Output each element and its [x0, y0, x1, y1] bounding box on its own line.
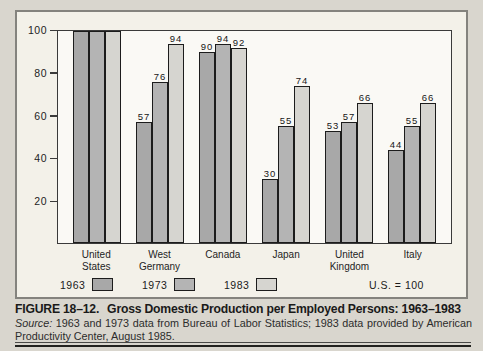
index-note: U.S. = 100	[369, 279, 424, 291]
value-label-1983-italy: 66	[422, 92, 435, 103]
figure-number: FIGURE 18–12.	[15, 302, 99, 316]
plot-area: 577694909492305574535766445566	[57, 30, 452, 244]
bar-group-united-states	[73, 31, 121, 243]
bar-1983-canada: 92	[231, 48, 247, 243]
bottom-rule-thin	[15, 342, 471, 343]
bar-1963-united-kingdom: 53	[325, 131, 341, 243]
y-tick-mark-20	[50, 201, 57, 203]
y-tick-label-40: 40	[19, 152, 47, 164]
caption-title-line: FIGURE 18–12.Gross Domestic Production p…	[15, 302, 472, 316]
x-label-cell-united-states: United States	[72, 249, 120, 277]
value-label-1973-united-kingdom: 57	[343, 111, 356, 122]
y-tick-mark-40	[50, 158, 57, 160]
legend-item-1973: 1973	[142, 278, 195, 291]
legend-item-1963: 1963	[60, 278, 113, 291]
legend-label-1963: 1963	[60, 279, 85, 291]
y-tick-label-20: 20	[19, 195, 47, 207]
value-label-1973-italy: 55	[406, 115, 419, 126]
source-prefix: Source:	[15, 317, 52, 329]
bar-1983-japan: 74	[294, 86, 310, 243]
value-label-1983-canada: 92	[233, 37, 246, 48]
x-label-italy: Italy	[404, 249, 422, 277]
value-label-1973-canada: 94	[217, 33, 230, 44]
bar-1973-west-germany: 76	[152, 82, 168, 243]
legend-swatch-1973	[174, 278, 195, 291]
bar-1983-united-kingdom: 66	[357, 103, 373, 243]
legend-label-1973: 1973	[142, 279, 167, 291]
bar-1963-united-states	[73, 31, 89, 243]
bar-1973-japan: 55	[278, 126, 294, 243]
legend-swatch-1983	[256, 278, 277, 291]
bar-1963-canada: 90	[199, 52, 215, 243]
value-label-1963-italy: 44	[390, 139, 403, 150]
bar-group-west-germany: 577694	[136, 31, 184, 243]
x-label-cell-italy: Italy	[389, 249, 437, 277]
x-axis-labels: United StatesWest GermanyCanadaJapanUnit…	[57, 249, 452, 277]
bar-group-united-kingdom: 535766	[325, 31, 373, 243]
bar-1973-united-kingdom: 57	[341, 122, 357, 243]
bar-group-canada: 909492	[199, 31, 247, 243]
x-label-united-states: United States	[82, 249, 111, 277]
bar-1973-canada: 94	[215, 44, 231, 243]
bar-1973-italy: 55	[404, 126, 420, 243]
bar-group-japan: 305574	[262, 31, 310, 243]
x-label-japan: Japan	[273, 249, 300, 277]
source-text: 1963 and 1973 data from Bureau of Labor …	[15, 317, 472, 342]
value-label-1983-united-kingdom: 66	[359, 92, 372, 103]
figure-caption: FIGURE 18–12.Gross Domestic Production p…	[15, 302, 472, 343]
bar-1983-italy: 66	[420, 103, 436, 243]
bar-1983-west-germany: 94	[168, 44, 184, 243]
bar-1963-japan: 30	[262, 179, 278, 243]
x-label-cell-united-kingdom: United Kingdom	[325, 249, 373, 277]
bar-1983-united-states	[105, 31, 121, 243]
y-tick-mark-80	[50, 72, 57, 74]
x-label-west-germany: West Germany	[139, 249, 180, 277]
figure-title: Gross Domestic Production per Employed P…	[107, 302, 461, 316]
bottom-rule-thick	[15, 345, 471, 348]
value-label-1963-united-kingdom: 53	[327, 120, 340, 131]
legend: 1963 1973 1983 U.S. = 100	[17, 278, 466, 296]
value-label-1963-japan: 30	[264, 168, 277, 179]
legend-item-1983: 1983	[224, 278, 277, 291]
value-label-1963-canada: 90	[201, 41, 214, 52]
value-label-1983-west-germany: 94	[170, 33, 183, 44]
figure-box: 577694909492305574535766445566 204060801…	[15, 10, 468, 299]
x-label-cell-japan: Japan	[262, 249, 310, 277]
value-label-1983-japan: 74	[296, 75, 309, 86]
bar-1963-west-germany: 57	[136, 122, 152, 243]
value-label-1973-west-germany: 76	[154, 71, 167, 82]
value-label-1973-japan: 55	[280, 115, 293, 126]
value-label-1963-west-germany: 57	[138, 111, 151, 122]
x-label-canada: Canada	[205, 249, 240, 277]
y-tick-mark-100	[50, 30, 57, 32]
y-tick-label-100: 100	[19, 24, 47, 36]
x-label-cell-canada: Canada	[199, 249, 247, 277]
x-label-cell-west-germany: West Germany	[136, 249, 184, 277]
figure-source: Source: 1963 and 1973 data from Bureau o…	[15, 317, 472, 343]
legend-swatch-1963	[92, 278, 113, 291]
legend-label-1983: 1983	[224, 279, 249, 291]
y-tick-mark-60	[50, 115, 57, 117]
bar-group-italy: 445566	[388, 31, 436, 243]
y-tick-label-60: 60	[19, 110, 47, 122]
y-tick-label-80: 80	[19, 67, 47, 79]
bar-1973-united-states	[89, 31, 105, 243]
x-label-united-kingdom: United Kingdom	[330, 249, 369, 277]
bar-1963-italy: 44	[388, 150, 404, 243]
